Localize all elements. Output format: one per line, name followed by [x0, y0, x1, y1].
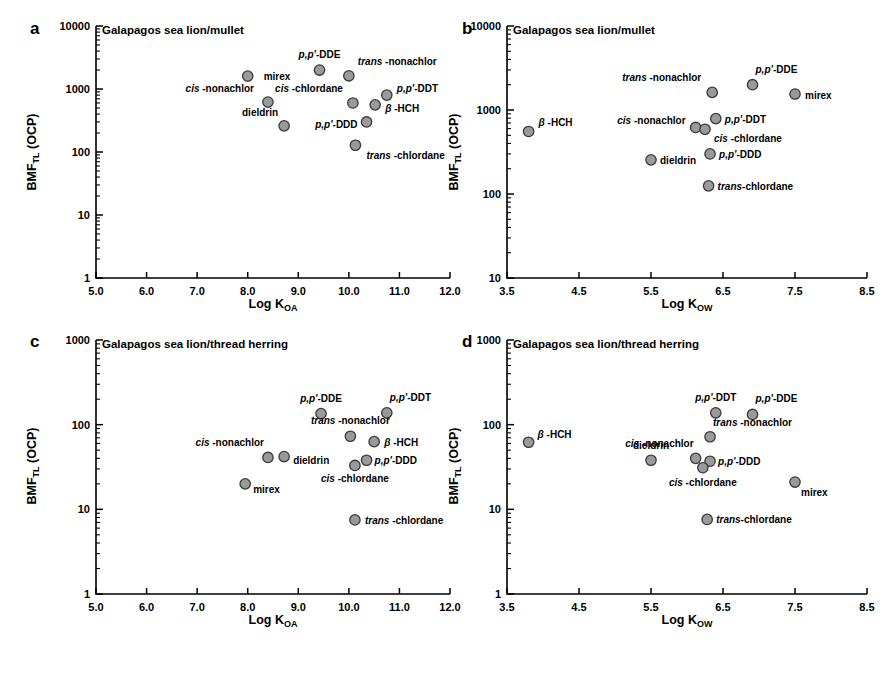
data-point	[747, 80, 757, 90]
data-point-label: trans-chlordane	[718, 181, 794, 192]
x-axis-title: Log KOA	[249, 613, 298, 629]
x-tick-label: 6.0	[139, 601, 154, 613]
y-tick-label: 10	[78, 209, 90, 221]
data-point	[369, 436, 379, 446]
data-point	[690, 453, 700, 463]
data-point-label: cis -nonachlor	[617, 115, 685, 126]
y-tick-label: 100	[72, 419, 90, 431]
data-point	[350, 140, 360, 150]
y-axis-title: BMFTL (OCP)	[447, 114, 463, 191]
data-point	[279, 121, 289, 131]
data-point	[361, 117, 371, 127]
data-point	[348, 98, 358, 108]
data-point-label: β -HCH	[538, 117, 573, 128]
data-point	[705, 149, 715, 159]
y-tick-label: 1000	[477, 334, 501, 346]
data-point-label: p,p'-DDD	[717, 456, 760, 467]
data-point	[345, 431, 355, 441]
data-point	[711, 113, 721, 123]
data-point	[705, 432, 715, 442]
data-point-label: p,p'-DDE	[755, 393, 798, 404]
data-point	[646, 455, 656, 465]
data-point	[382, 90, 392, 100]
data-point	[700, 124, 710, 134]
data-point	[279, 451, 289, 461]
data-point-label: dieldrin	[293, 455, 329, 466]
x-tick-label: 9.0	[291, 601, 306, 613]
data-point-label: trans -chlordane	[366, 150, 445, 161]
data-point-label: trans -nonachlor	[311, 415, 390, 426]
y-tick-label: 10000	[470, 20, 501, 32]
y-axis-title: BMFTL (OCP)	[25, 114, 41, 191]
data-point-label: p,p'-DDT	[694, 392, 736, 403]
y-tick-label: 100	[483, 419, 501, 431]
data-point-label: β -HCH	[537, 429, 572, 440]
y-tick-label: 10000	[59, 20, 90, 32]
data-point-label: p,p'-DDE	[298, 49, 341, 60]
data-point-label: dieldrin	[633, 440, 669, 451]
data-point	[350, 515, 360, 525]
x-tick-label: 6.5	[715, 601, 730, 613]
y-tick-label: 1000	[477, 104, 501, 116]
data-point-label: trans-chlordane	[716, 514, 792, 525]
panel-b: b 3.54.55.56.57.58.510100100010000Galapa…	[440, 0, 896, 340]
x-tick-label: 7.5	[787, 285, 802, 297]
y-axis-title: BMFTL (OCP)	[447, 428, 463, 505]
data-point	[523, 126, 533, 136]
data-point-label: cis -nonachlor	[196, 437, 264, 448]
data-point-label: p,p'-DDD	[314, 119, 357, 130]
data-point	[523, 437, 533, 447]
data-point-label: p,p'-DDE	[755, 64, 798, 75]
y-axis-title: BMFTL (OCP)	[25, 428, 41, 505]
x-tick-label: 3.5	[499, 285, 514, 297]
data-point	[263, 97, 273, 107]
x-tick-label: 5.5	[643, 601, 658, 613]
data-point	[698, 463, 708, 473]
y-tick-label: 10	[489, 503, 501, 515]
x-tick-label: 8.5	[859, 601, 874, 613]
x-tick-label: 11.0	[389, 285, 410, 297]
data-point-label: dieldrin	[660, 155, 696, 166]
x-tick-label: 10.0	[338, 285, 359, 297]
x-tick-label: 4.5	[571, 285, 586, 297]
data-point-label: mirex	[253, 484, 280, 495]
data-point-label: trans -nonachlor	[622, 72, 701, 83]
plot-d: 3.54.55.56.57.58.51101001000Galapagos se…	[440, 316, 896, 681]
x-tick-label: 6.0	[139, 285, 154, 297]
y-tick-label: 100	[72, 146, 90, 158]
data-point-label: mirex	[801, 487, 828, 498]
data-point-label: p,p'-DDT	[396, 83, 438, 94]
data-point-label: cis -nonachlor	[186, 83, 254, 94]
data-point-label: p,p'-DDD	[374, 455, 417, 466]
panel-title: Galapagos sea lion/mullet	[513, 24, 655, 36]
data-point	[690, 122, 700, 132]
x-axis-title: Log KOW	[662, 297, 713, 313]
data-point	[263, 452, 273, 462]
data-point	[790, 477, 800, 487]
panel-title: Galapagos sea lion/mullet	[102, 24, 244, 36]
plot-a: 5.06.07.08.09.010.011.012.01101001000100…	[0, 0, 456, 340]
x-tick-label: 7.5	[787, 601, 802, 613]
data-point	[350, 460, 360, 470]
data-point-label: mirex	[805, 90, 832, 101]
x-tick-label: 6.5	[715, 285, 730, 297]
x-axis-title: Log KOA	[249, 297, 298, 313]
plot-b: 3.54.55.56.57.58.510100100010000Galapago…	[440, 0, 896, 340]
axis-lines	[507, 26, 867, 278]
y-tick-label: 1	[84, 272, 90, 284]
x-axis-title: Log KOW	[662, 613, 713, 629]
data-point	[707, 87, 717, 97]
data-point-label: p,p'-DDD	[718, 149, 761, 160]
x-tick-label: 8.0	[240, 285, 255, 297]
data-point-label: β -HCH	[383, 437, 418, 448]
y-tick-label: 1000	[66, 334, 90, 346]
y-tick-label: 10	[78, 503, 90, 515]
figure-panel-grid: a 5.06.07.08.09.010.011.012.011010010001…	[0, 0, 896, 681]
panel-title: Galapagos sea lion/thread herring	[102, 338, 288, 350]
x-tick-label: 10.0	[338, 601, 359, 613]
axis-lines	[96, 340, 450, 594]
x-tick-label: 3.5	[499, 601, 514, 613]
x-tick-label: 5.5	[643, 285, 658, 297]
x-tick-label: 8.5	[859, 285, 874, 297]
y-tick-label: 1000	[66, 83, 90, 95]
